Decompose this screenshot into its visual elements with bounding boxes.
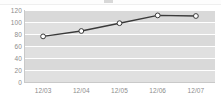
data-point-marker[interactable] [117, 21, 122, 26]
data-point-marker[interactable] [194, 14, 199, 19]
series-layer [0, 0, 221, 107]
line-chart-widget: 120100806040200 12/0312/0412/0512/0612/0… [0, 0, 221, 107]
data-point-marker[interactable] [155, 13, 160, 18]
data-point-marker[interactable] [41, 34, 46, 39]
data-point-marker[interactable] [79, 29, 84, 34]
